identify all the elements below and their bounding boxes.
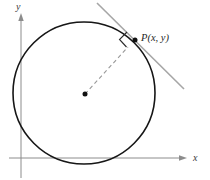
point-p-dot	[133, 38, 138, 43]
x-axis-arrowhead-icon	[179, 155, 187, 160]
center-point-dot	[83, 92, 88, 97]
tangent-line	[97, 3, 184, 89]
y-axis-arrowhead-icon	[18, 13, 23, 21]
dashed-radius-line	[85, 47, 128, 94]
x-axis-label: x	[192, 152, 198, 163]
circle-tangent-figure: y x P(x, y)	[0, 0, 210, 180]
point-p-label: P(x, y)	[140, 32, 169, 44]
figure-canvas: y x P(x, y)	[0, 0, 210, 180]
y-axis-label: y	[15, 1, 21, 12]
